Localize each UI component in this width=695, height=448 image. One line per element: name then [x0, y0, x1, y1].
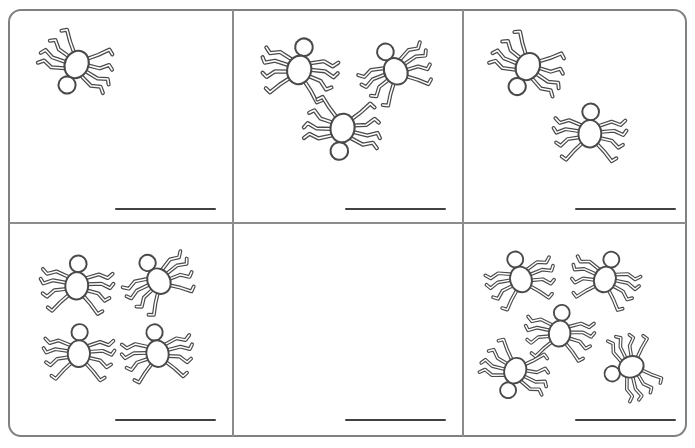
- spider-icon: [297, 87, 387, 177]
- answer-line-bottom-left[interactable]: [115, 419, 216, 421]
- worksheet-cell-bottom-left[interactable]: [9, 224, 232, 437]
- spider-icon: [41, 312, 118, 389]
- worksheet-cell-top-left[interactable]: [9, 10, 232, 222]
- answer-line-top-middle[interactable]: [345, 208, 446, 210]
- worksheet-cell-bottom-middle[interactable]: [234, 224, 462, 437]
- worksheet-cell-top-right[interactable]: [464, 10, 686, 222]
- spider-icon: [551, 91, 630, 170]
- counting-worksheet: [0, 0, 695, 448]
- spider-icon: [115, 308, 199, 392]
- answer-line-top-left[interactable]: [115, 208, 216, 210]
- worksheet-cell-top-middle[interactable]: [234, 10, 462, 222]
- worksheet-cell-bottom-right[interactable]: [464, 224, 686, 437]
- answer-line-bottom-right[interactable]: [575, 419, 676, 421]
- spider-icon: [36, 241, 117, 322]
- answer-line-bottom-middle[interactable]: [345, 419, 446, 421]
- spider-icon: [583, 323, 673, 413]
- answer-line-top-right[interactable]: [575, 208, 676, 210]
- spider-icon: [23, 16, 127, 120]
